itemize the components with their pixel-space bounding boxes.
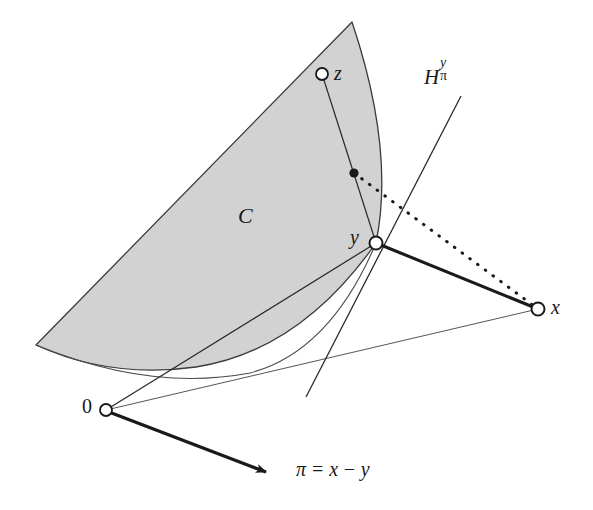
pi-direction-arrow [109,412,266,472]
point-marker-z [316,68,328,80]
point-marker-origin [100,404,112,416]
cone-region-C [36,22,382,370]
edge-y-to-x [376,243,538,309]
pi-term-x: x [329,458,338,480]
pi-equals-sign: = [312,458,323,480]
hyperplane-subscript: π [440,69,447,83]
geometry-diagram [0,0,593,510]
figure-canvas: z C y x 0 Hyπ π=x−y [0,0,593,510]
label-hyperplane: Hyπ [424,63,457,88]
point-marker-y [370,237,383,250]
label-point-y: y [350,227,359,247]
label-point-z: z [334,63,342,83]
pi-minus-sign: − [344,458,355,480]
label-origin: 0 [82,396,92,416]
hyperplane-base-letter: H [424,65,439,89]
pi-symbol: π [296,458,306,480]
projection-foot-dot [349,168,358,177]
label-point-x: x [551,297,560,317]
hyperplane-indices: yπ [439,63,457,84]
label-cone-C: C [238,205,253,227]
point-marker-x [532,303,545,316]
label-pi-equation: π=x−y [296,459,370,479]
pi-term-y: y [361,458,370,480]
